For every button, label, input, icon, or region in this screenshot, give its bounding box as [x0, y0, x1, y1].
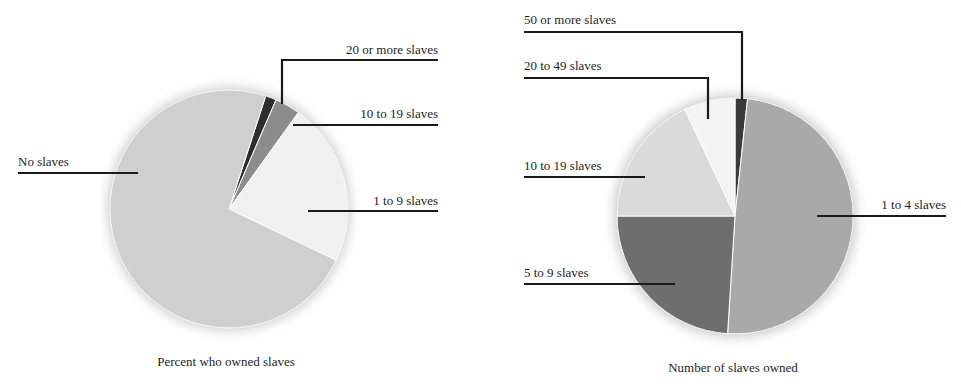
label-1-to-9: 1 to 9 slaves [373, 193, 438, 208]
label-1-to-4: 1 to 4 slaves [881, 197, 946, 212]
label-no-slaves: No slaves [18, 154, 69, 169]
pie-chart-percent-owned: 20 or more slaves 10 to 19 slaves 1 to 9… [18, 42, 438, 369]
label-20-to-49: 20 to 49 slaves [524, 58, 602, 73]
caption-percent-owned: Percent who owned slaves [157, 354, 295, 369]
leader-20-or-more [282, 60, 438, 104]
label-10-to-19-r: 10 to 19 slaves [524, 158, 602, 173]
caption-number-owned: Number of slaves owned [668, 360, 798, 375]
label-50-or-more: 50 or more slaves [524, 12, 616, 27]
pie-chart-number-owned: 50 or more slaves 20 to 49 slaves 10 to … [524, 12, 946, 375]
label-20-or-more: 20 or more slaves [346, 42, 438, 57]
charts-canvas: 20 or more slaves 10 to 19 slaves 1 to 9… [0, 0, 961, 386]
pie-slice [617, 216, 735, 334]
label-5-to-9: 5 to 9 slaves [524, 265, 589, 280]
label-10-to-19: 10 to 19 slaves [360, 106, 438, 121]
